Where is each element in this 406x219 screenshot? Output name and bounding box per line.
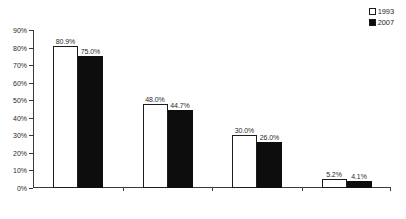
- y-tick-90: [29, 30, 33, 31]
- legend-label-1993: 1993: [378, 8, 394, 16]
- y-axis-line: [33, 30, 34, 188]
- y-tick-label-90: 90%: [13, 27, 27, 34]
- bar-1993-lifetime-alcohol: 80.9%: [53, 46, 78, 188]
- bar-2007-episodic-heavy-drinking: 26.0%: [257, 142, 282, 188]
- bar-value-2007-drank-alcohol-school-property: 4.1%: [351, 173, 367, 180]
- bar-value-1993-lifetime-alcohol: 80.9%: [56, 38, 75, 45]
- y-tick-40: [29, 118, 33, 119]
- y-tick-label-70: 70%: [13, 62, 27, 69]
- x-tick-4: [390, 188, 391, 191]
- y-tick-label-50: 50%: [13, 97, 27, 104]
- bar-value-2007-episodic-heavy-drinking: 26.0%: [260, 134, 279, 141]
- y-tick-label-40: 40%: [13, 114, 27, 121]
- y-tick-label-0: 0%: [17, 185, 27, 192]
- bar-value-2007-current-alcohol-use: 44.7%: [170, 102, 189, 109]
- bar-chart: 1993 2007 90% 80% 70% 60% 50%: [0, 0, 406, 219]
- y-tick-20: [29, 153, 33, 154]
- bar-1993-drank-alcohol-school-property: 5.2%: [322, 179, 347, 188]
- bar-group-drank-alcohol-school-property: 5.2% 4.1%: [322, 30, 372, 188]
- x-tick-2: [212, 188, 213, 191]
- y-tick-label-60: 60%: [13, 79, 27, 86]
- bar-value-2007-lifetime-alcohol: 75.0%: [81, 48, 100, 55]
- bar-2007-current-alcohol-use: 44.7%: [168, 110, 193, 188]
- legend-label-2007: 2007: [378, 19, 394, 27]
- y-tick-0: [29, 188, 33, 189]
- y-tick-50: [29, 100, 33, 101]
- y-tick-label-30: 30%: [13, 132, 27, 139]
- y-tick-10: [29, 170, 33, 171]
- bar-group-episodic-heavy-drinking: 30.0% 26.0%: [232, 30, 282, 188]
- bar-value-1993-episodic-heavy-drinking: 30.0%: [235, 127, 254, 134]
- x-tick-3: [302, 188, 303, 191]
- bar-1993-current-alcohol-use: 48.0%: [143, 104, 168, 188]
- bar-2007-lifetime-alcohol: 75.0%: [78, 56, 103, 188]
- y-tick-80: [29, 48, 33, 49]
- y-tick-60: [29, 83, 33, 84]
- filled-square-icon: [369, 19, 376, 26]
- y-tick-label-20: 20%: [13, 149, 27, 156]
- y-tick-label-10: 10%: [13, 167, 27, 174]
- y-tick-30: [29, 135, 33, 136]
- hollow-square-icon: [369, 8, 376, 15]
- bar-1993-episodic-heavy-drinking: 30.0%: [232, 135, 257, 188]
- legend-item-2007: 2007: [369, 19, 394, 27]
- bar-value-1993-drank-alcohol-school-property: 5.2%: [326, 171, 342, 178]
- plot-area: 90% 80% 70% 60% 50% 40% 30% 20%: [33, 30, 391, 188]
- legend-item-1993: 1993: [369, 8, 394, 16]
- y-tick-label-80: 80%: [13, 44, 27, 51]
- bar-value-1993-current-alcohol-use: 48.0%: [145, 96, 164, 103]
- chart-legend: 1993 2007: [369, 8, 394, 26]
- x-tick-1: [123, 188, 124, 191]
- bar-2007-drank-alcohol-school-property: 4.1%: [347, 181, 372, 188]
- bar-group-current-alcohol-use: 48.0% 44.7%: [143, 30, 193, 188]
- bar-group-lifetime-alcohol: 80.9% 75.0%: [53, 30, 103, 188]
- y-tick-70: [29, 65, 33, 66]
